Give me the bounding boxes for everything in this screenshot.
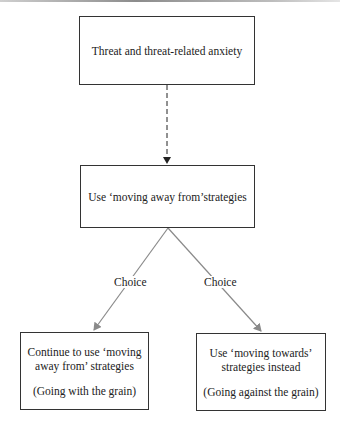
node-continue-line2: away from’ strategies <box>35 359 134 373</box>
node-continue-note: (Going with the grain) <box>33 384 136 398</box>
node-threat-text: Threat and threat-related anxiety <box>92 44 242 58</box>
node-towards-line2: strategies instead <box>222 360 301 374</box>
edge-label-choice-right: Choice <box>203 276 238 288</box>
node-moving-away: Use ‘moving away from’strategies <box>80 165 255 228</box>
node-moving-towards: Use ‘moving towards’ strategies instead … <box>196 333 326 411</box>
node-continue-moving-away: Continue to use ‘moving away from’ strat… <box>20 332 149 410</box>
node-moving-away-text: Use ‘moving away from’strategies <box>88 190 247 204</box>
node-towards-line1: Use ‘moving towards’ <box>210 346 313 360</box>
edge-label-choice-left: Choice <box>113 276 148 288</box>
node-threat: Threat and threat-related anxiety <box>79 16 255 85</box>
node-towards-note: (Going against the grain) <box>203 385 318 399</box>
node-continue-line1: Continue to use ‘moving <box>27 345 141 359</box>
